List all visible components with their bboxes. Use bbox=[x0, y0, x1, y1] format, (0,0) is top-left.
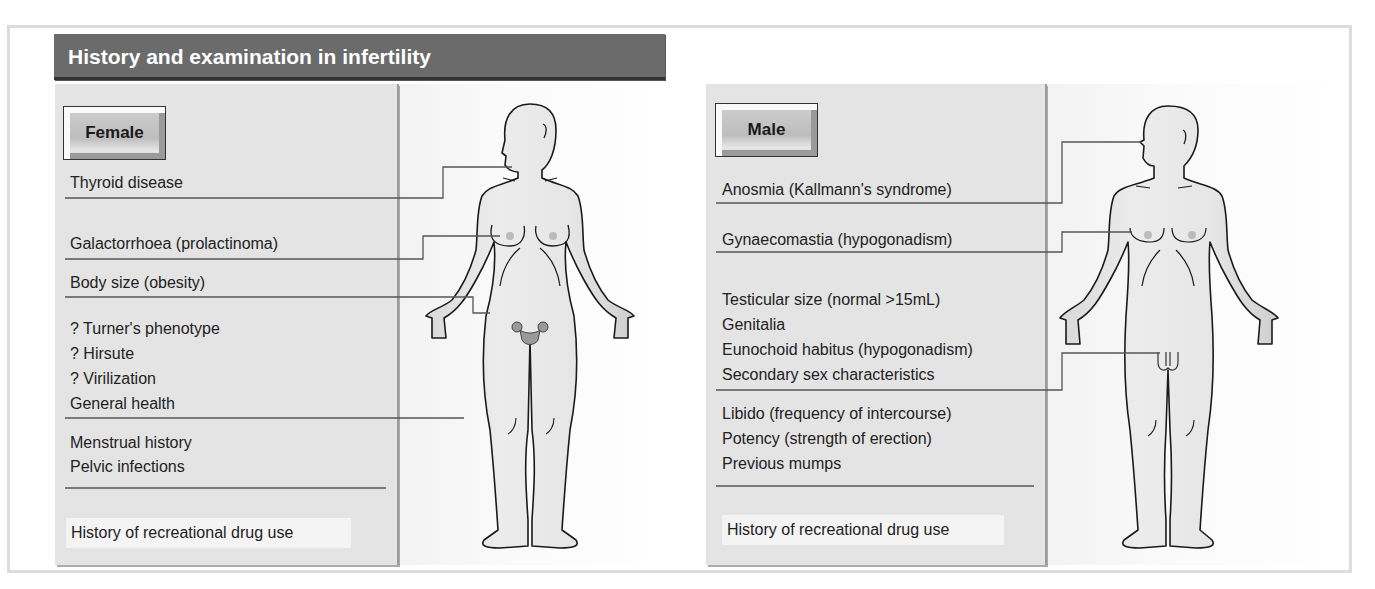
male-leader-lines bbox=[716, 142, 1160, 486]
male-body-icon bbox=[1060, 106, 1278, 548]
female-body-icon bbox=[426, 104, 634, 548]
body-diagrams bbox=[0, 0, 1375, 589]
